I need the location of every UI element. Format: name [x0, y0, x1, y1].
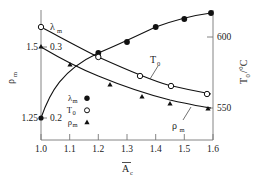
data-point-marker	[204, 91, 209, 96]
x-axis-title-sub: c	[130, 169, 133, 176]
series-rho-m: ρ m	[38, 44, 211, 133]
legend-item-rho-m: ρ m	[68, 117, 90, 128]
data-point-marker	[38, 24, 43, 29]
series-lambda-m-curve	[41, 13, 211, 118]
left-axis-title-main: ρ	[5, 79, 16, 84]
legend-label-lambda-sub: m	[73, 97, 78, 104]
annotation-T0-sub: 0	[157, 60, 160, 67]
x-axis-ticks	[41, 134, 213, 140]
data-point-marker	[137, 73, 142, 78]
data-point-marker	[38, 44, 43, 49]
left-tick-label-1.25: 1.25	[21, 113, 38, 123]
series-T0-curve	[41, 27, 211, 94]
annotation-T0-main: T	[150, 54, 156, 65]
chart-legend: λ m T 0 ρ m	[67, 93, 90, 128]
right-axis-title-sub: 0	[244, 74, 251, 77]
right-tick-label-550: 550	[217, 103, 232, 113]
legend-label-rho-sub: m	[73, 121, 78, 128]
left-inner-tick-label-0.3: 0.3	[50, 42, 62, 52]
left-axis-title-sub: m	[11, 72, 18, 77]
right-axis-title-main: T	[238, 78, 249, 84]
annotation-rho-sub: m	[180, 126, 185, 133]
x-tick-label-4: 1.4	[150, 144, 162, 154]
right-axis-tick-labels: 600 550	[217, 32, 232, 113]
legend-label-T0-sub: 0	[73, 109, 76, 116]
right-axis-ticks	[207, 37, 213, 108]
right-tick-label-600: 600	[217, 32, 232, 42]
x-tick-label-6: 1.6	[207, 144, 219, 154]
data-point-marker	[153, 24, 159, 30]
data-point-marker	[139, 94, 144, 99]
legend-label-rho-main: ρ	[68, 117, 72, 127]
left-axis-tick-labels: 1.5 1.25	[21, 42, 38, 123]
annotation-rho-leader	[183, 107, 191, 120]
series-rho-m-curve	[41, 47, 211, 108]
legend-marker-filled-circle	[84, 96, 89, 101]
data-point-marker	[181, 16, 187, 22]
series-lambda-m-annotation: λ m	[50, 21, 62, 34]
left-axis-inner-tick-labels: 0.3 0.2	[50, 42, 62, 123]
x-tick-label-3: 1.3	[121, 144, 133, 154]
left-axis-ticks	[41, 47, 47, 118]
annotation-lambda-main: λ	[50, 21, 55, 32]
data-point-marker	[96, 54, 101, 59]
data-point-marker	[107, 82, 112, 87]
data-point-marker	[167, 101, 172, 106]
series-rho-m-annotation: ρ m	[172, 120, 185, 133]
series-T0-annotation: T 0	[150, 54, 160, 67]
data-point-marker	[168, 83, 173, 88]
legend-marker-open-circle	[85, 108, 90, 113]
data-point-marker	[208, 10, 214, 16]
data-point-marker	[38, 115, 43, 120]
x-axis-title-main: A	[122, 163, 130, 174]
annotation-lambda-sub: m	[57, 27, 62, 34]
x-tick-label-5: 1.5	[178, 144, 190, 154]
annotation-T0-leader	[150, 66, 158, 79]
x-tick-label-0: 1.0	[35, 144, 47, 154]
x-tick-label-1: 1.1	[64, 144, 76, 154]
data-point-marker	[124, 39, 130, 45]
left-tick-label-1.5: 1.5	[26, 42, 38, 52]
chart-container: 1.0 1.1 1.2 1.3 1.4 1.5 1.6 A c 1.5 1.25…	[0, 0, 260, 181]
x-axis-tick-labels: 1.0 1.1 1.2 1.3 1.4 1.5 1.6	[35, 144, 219, 154]
right-axis-title: T 0 /°C	[238, 59, 251, 84]
left-inner-tick-label-0.2: 0.2	[50, 113, 62, 123]
legend-marker-filled-triangle	[84, 120, 89, 125]
legend-item-T0: T 0	[67, 105, 90, 116]
left-axis-title: ρ m	[5, 72, 18, 84]
annotation-rho-main: ρ	[172, 120, 177, 131]
x-axis-title: A c	[122, 163, 133, 176]
chart-svg: 1.0 1.1 1.2 1.3 1.4 1.5 1.6 A c 1.5 1.25…	[0, 0, 260, 181]
right-axis-title-unit: /°C	[238, 59, 249, 73]
legend-item-lambda-m: λ m	[68, 93, 90, 104]
x-tick-label-2: 1.2	[92, 144, 104, 154]
